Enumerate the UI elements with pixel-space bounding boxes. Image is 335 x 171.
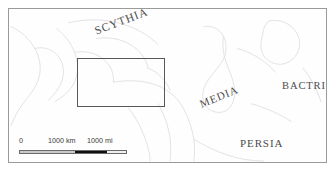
scale-label-kilometers: 1000 km (48, 136, 76, 145)
reference-map-figure: SCYTHIA MEDIA BACTRIA PERSIA 0 1000 km 1… (0, 0, 335, 171)
scale-bar-segment-light (20, 151, 75, 153)
region-label-persia: PERSIA (240, 137, 283, 149)
scale-bar-segment-tail (107, 151, 126, 153)
region-label-bactria: BACTRIA (282, 80, 327, 91)
scale-label-miles: 1000 mi (87, 136, 113, 145)
map-neatline-frame: SCYTHIA MEDIA BACTRIA PERSIA 0 1000 km 1… (8, 8, 327, 163)
scale-bar-track (19, 150, 127, 154)
scale-bar: 0 1000 km 1000 mi (19, 134, 129, 156)
scale-label-zero: 0 (19, 136, 23, 145)
detail-extent-rectangle[interactable] (77, 58, 165, 107)
scale-bar-segment-dark (75, 151, 107, 153)
scale-bar-labels: 0 1000 km 1000 mi (19, 134, 129, 145)
